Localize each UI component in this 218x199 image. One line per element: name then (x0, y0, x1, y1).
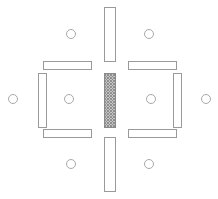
node-top-left (67, 30, 76, 39)
center-hatched-bar (105, 74, 116, 128)
bottom-center-bar (105, 138, 116, 192)
lower-right-horizontal-bar (129, 130, 177, 138)
diagram-canvas (0, 0, 218, 199)
node-left-inner (65, 95, 74, 104)
node-bottom-right (145, 160, 154, 169)
upper-right-horizontal-bar (129, 62, 177, 70)
lower-left-horizontal-bar (44, 130, 92, 138)
bars-group (39, 8, 182, 192)
left-inner-vertical-bar (39, 74, 47, 128)
node-bottom-left (67, 160, 76, 169)
diagram-svg (0, 0, 218, 199)
node-top-right (145, 30, 154, 39)
top-center-bar (105, 8, 116, 62)
right-inner-vertical-bar (174, 74, 182, 128)
node-right-inner (147, 95, 156, 104)
node-right-outer (202, 95, 211, 104)
node-left-outer (9, 95, 18, 104)
upper-left-horizontal-bar (44, 62, 92, 70)
